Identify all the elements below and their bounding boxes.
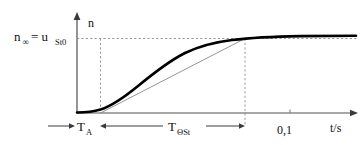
dimension-label-tthetast-main: T bbox=[168, 119, 176, 134]
step-response-figure: n n ∞ = u St0 T A T ΘSt 0,1 t/s bbox=[0, 0, 363, 145]
dimension-arrowhead-ta-right-icon bbox=[69, 123, 75, 129]
y-axis-label: n bbox=[88, 16, 94, 30]
asymptote-label-subscript-st0: St0 bbox=[55, 37, 66, 47]
dimension-label-tthetast: T ΘSt bbox=[168, 119, 191, 137]
x-axis-tick-label-0-1: 0,1 bbox=[277, 123, 292, 137]
x-axis-arrowhead-icon bbox=[350, 110, 358, 116]
dimension-label-tthetast-sub: ΘSt bbox=[177, 127, 191, 137]
dimension-arrowhead-tthetast-right-icon bbox=[239, 123, 245, 129]
asymptote-value-label: n ∞ = u St0 bbox=[14, 29, 66, 47]
dimension-label-ta-main: T bbox=[77, 119, 85, 134]
plot-canvas: n n ∞ = u St0 T A T ΘSt 0,1 t/s bbox=[0, 0, 363, 145]
x-axis-label: t/s bbox=[330, 121, 342, 135]
inflection-tangent-line bbox=[101, 39, 246, 114]
asymptote-label-infinity: ∞ bbox=[23, 37, 29, 47]
dimension-label-ta: T A bbox=[77, 119, 93, 137]
y-axis-arrowhead-icon bbox=[74, 12, 81, 20]
dimension-label-ta-sub: A bbox=[86, 127, 93, 137]
asymptote-label-n: n bbox=[14, 29, 21, 44]
step-response-curve bbox=[77, 36, 356, 113]
asymptote-label-equals-u: = u bbox=[31, 29, 49, 44]
